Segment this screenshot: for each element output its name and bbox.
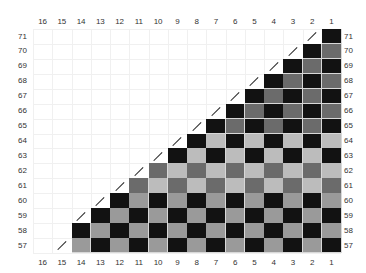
grid-cell-r67-c2 (303, 89, 323, 104)
grid-cell-r59-c1 (322, 208, 342, 223)
column-label-bottom: 13 (91, 258, 110, 268)
grid-cell-r63-c2 (303, 148, 323, 163)
grid-cell-r61-c1 (322, 178, 342, 193)
grid-cell-r58-c5 (245, 223, 265, 238)
column-label-top: 15 (52, 17, 71, 27)
grid-cell-r62-c6 (226, 163, 246, 178)
grid-cell-r64-c3 (283, 134, 303, 149)
grid-cell-r64-c1 (322, 134, 342, 149)
grid-cell-r64-c5 (245, 134, 265, 149)
grid-cell-r59-c7 (206, 208, 226, 223)
grid-cell-r61-c6 (226, 178, 246, 193)
grid-cell-r68-c2 (303, 74, 323, 89)
diagonal-slash-mark (115, 182, 124, 191)
grid-cell-r59-c2 (303, 208, 323, 223)
column-label-bottom: 6 (226, 258, 245, 268)
grid-cell-r57-c4 (264, 238, 284, 253)
grid-cell-r66-c4 (264, 104, 284, 119)
grid-cell-r59-c5 (245, 208, 265, 223)
column-label-top: 12 (110, 17, 129, 27)
column-label-bottom: 15 (52, 258, 71, 268)
grid-cell-r61-c9 (168, 178, 188, 193)
diagonal-slash-mark (134, 167, 143, 176)
grid-cell-r63-c8 (187, 148, 207, 163)
grid-cell-r57-c2 (303, 238, 323, 253)
column-label-bottom: 16 (33, 258, 52, 268)
grid-cell-r65-c4 (264, 119, 284, 134)
grid-cell-r67-c3 (283, 89, 303, 104)
row-label-right: 62 (344, 166, 358, 176)
grid-cell-r62-c4 (264, 163, 284, 178)
column-label-top: 7 (206, 17, 225, 27)
diagonal-slash-mark (269, 62, 278, 71)
grid-cell-r59-c12 (110, 208, 130, 223)
grid-cell-r58-c3 (283, 223, 303, 238)
row-label-left: 58 (18, 226, 32, 236)
grid-cell-r71-c1 (322, 29, 342, 44)
diagonal-slash-mark (250, 77, 259, 86)
grid-cell-r61-c11 (129, 178, 149, 193)
gridline-vertical (72, 29, 73, 253)
grid-cell-r65-c6 (226, 119, 246, 134)
column-label-top: 6 (226, 17, 245, 27)
grid-cell-r60-c10 (149, 193, 169, 208)
row-label-left: 67 (18, 91, 32, 101)
grid-cell-r57-c13 (91, 238, 111, 253)
grid-cell-r59-c8 (187, 208, 207, 223)
grid-cell-r63-c6 (226, 148, 246, 163)
column-label-bottom: 4 (264, 258, 283, 268)
row-label-right: 69 (344, 61, 358, 71)
grid-cell-r67-c4 (264, 89, 284, 104)
row-label-left: 71 (18, 32, 32, 42)
grid-cell-r66-c1 (322, 104, 342, 119)
grid-cell-r58-c13 (91, 223, 111, 238)
row-label-left: 69 (18, 61, 32, 71)
column-label-top: 5 (245, 17, 264, 27)
grid-cell-r60-c4 (264, 193, 284, 208)
grid-cell-r67-c5 (245, 89, 265, 104)
row-label-right: 66 (344, 106, 358, 116)
grid-cell-r66-c5 (245, 104, 265, 119)
column-label-top: 10 (149, 17, 168, 27)
row-label-right: 60 (344, 196, 358, 206)
row-label-right: 68 (344, 76, 358, 86)
column-label-top: 1 (322, 17, 341, 27)
grid-cell-r65-c7 (206, 119, 226, 134)
grid-cell-r70-c1 (322, 44, 342, 59)
grid-cell-r60-c6 (226, 193, 246, 208)
grid-cell-r60-c5 (245, 193, 265, 208)
grid-cell-r57-c11 (129, 238, 149, 253)
row-label-left: 70 (18, 46, 32, 56)
grid-cell-r59-c4 (264, 208, 284, 223)
grid-cell-r58-c7 (206, 223, 226, 238)
grid-cell-r62-c1 (322, 163, 342, 178)
column-label-bottom: 14 (72, 258, 91, 268)
grid-cell-r58-c4 (264, 223, 284, 238)
grid-cell-r61-c3 (283, 178, 303, 193)
row-label-right: 59 (344, 211, 358, 221)
diagonal-slash-mark (288, 47, 297, 56)
grid-cell-r65-c3 (283, 119, 303, 134)
diagonal-slash-mark (192, 122, 201, 131)
column-label-bottom: 3 (283, 258, 302, 268)
column-label-bottom: 8 (187, 258, 206, 268)
grid-cell-r64-c4 (264, 134, 284, 149)
column-label-top: 3 (283, 17, 302, 27)
diagonal-slash-mark (230, 92, 239, 101)
diagonal-slash-mark (76, 212, 85, 221)
column-label-top: 9 (168, 17, 187, 27)
grid-cell-r58-c2 (303, 223, 323, 238)
grid-cell-r58-c9 (168, 223, 188, 238)
column-label-top: 8 (187, 17, 206, 27)
column-label-top: 2 (303, 17, 322, 27)
row-label-left: 65 (18, 121, 32, 131)
grid-cell-r57-c5 (245, 238, 265, 253)
grid-cell-r65-c2 (303, 119, 323, 134)
grid-cell-r58-c14 (72, 223, 92, 238)
grid-cell-r64-c7 (206, 134, 226, 149)
grid-cell-r65-c5 (245, 119, 265, 134)
row-label-right: 64 (344, 136, 358, 146)
grid-cell-r60-c11 (129, 193, 149, 208)
grid-cell-r59-c6 (226, 208, 246, 223)
grid-cell-r69-c1 (322, 59, 342, 74)
